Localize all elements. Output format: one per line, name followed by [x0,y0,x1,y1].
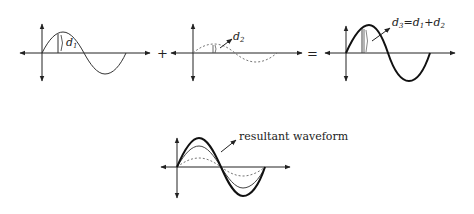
panel-resultant: resultant waveform [161,130,349,198]
displacement-brace-d3 [366,30,368,52]
label-d1: d1 [66,36,78,50]
panel-wave-d3: d3=d1+d2 [325,16,455,81]
panel-wave-d1: d1 [20,24,150,81]
pointer-arrow-d2 [220,39,232,48]
pointer-arrow-d3 [372,28,390,41]
label-resultant-waveform: resultant waveform [239,130,349,143]
label-d2: d2 [233,30,245,44]
label-d3-equation: d3=d1+d2 [392,16,446,30]
panel-wave-d2: d2 [171,24,302,81]
pointer-arrow-resultant [221,140,236,152]
equals-operator: = [307,46,318,61]
displacement-brace-d1 [61,35,63,51]
displacement-brace-d2 [215,45,216,53]
superposition-diagram: d1 + d2 = d3=d1+d2 resultant waveform [0,0,474,214]
plus-operator: + [157,46,168,61]
